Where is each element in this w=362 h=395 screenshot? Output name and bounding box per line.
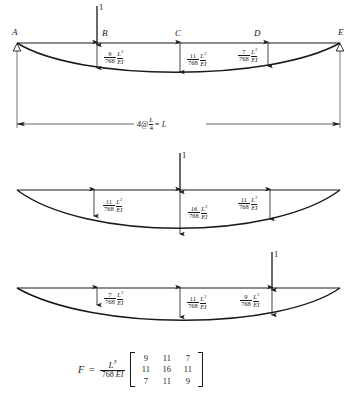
point-label-e: E [338,27,344,37]
deflection-label-1-b: 9 768 L3 EI [104,50,123,65]
flexibility-matrix-equation: F = L3 768 EI 9 11 7 11 16 11 7 [78,352,203,387]
matrix-cell: 11 [156,352,177,364]
symbol-fraction: L3 EI [117,291,123,306]
deflected-shape-3 [17,288,340,320]
matrix-bracket-group: 9 11 7 11 16 11 7 11 9 [130,352,203,387]
coefficient-fraction: 9 768 [104,51,116,65]
coefficient-fraction: 11 768 [103,199,115,213]
table-row: 9 11 7 [135,352,198,364]
deflection-label-3-c: 11 768 L3 EI [187,295,206,310]
matrix-cell: 9 [177,375,198,387]
matrix-cell: 11 [135,364,156,376]
matrix-cell: 7 [177,352,198,364]
symbol-fraction: L3 EI [116,198,122,213]
deflection-label-2-b: 11 768 L3 EI [103,198,122,213]
diagram-2-linework [17,153,340,234]
deflection-label-3-b: 7 768 L3 EI [104,291,123,306]
coefficient-fraction: 16 768 [188,206,200,220]
deflection-label-1-c: 11 768 L3 EI [187,52,206,67]
point-label-c: C [175,28,181,38]
table-row: 11 16 11 [135,364,198,376]
point-label-b: B [102,28,108,38]
point-label-d: D [254,28,261,38]
deflection-label-2-d: 11 768 L3 EI [238,196,257,211]
symbol-fraction: L3 EI [117,50,123,65]
matrix-table: 9 11 7 11 16 11 7 11 9 [135,352,198,387]
load-value-1: 1 [99,2,103,12]
load-value-3: 1 [274,249,278,259]
deflection-label-1-d: 7 768 L3 EI [238,48,257,63]
deflected-shape-1 [17,43,340,72]
diagram-1-linework [13,6,344,128]
coefficient-fraction: 7 768 [238,49,250,63]
coefficient-fraction: 9 768 [240,294,252,308]
matrix-cell: 9 [135,352,156,364]
matrix-symbol: F [78,364,84,375]
right-bracket [198,352,203,387]
matrix-cell: 7 [135,375,156,387]
coefficient-fraction: 11 768 [187,296,199,310]
symbol-fraction: L3 EI [251,48,257,63]
scalar-coefficient: L3 768 EI [100,359,126,380]
matrix-cell: 16 [156,364,177,376]
equals-sign: = [89,364,95,375]
quarter-span-fraction: L 4 [149,117,153,132]
symbol-fraction: L3 EI [200,52,206,67]
coefficient-fraction: 7 768 [104,292,116,306]
matrix-cell: 11 [156,375,177,387]
beam-flexibility-figure: A B C D E 1 1 1 9 768 L3 EI 11 768 L3 EI… [0,0,362,395]
figure-linework [0,0,362,395]
deflection-label-3-d: 9 768 L3 EI [240,293,259,308]
load-value-2: 1 [182,150,186,160]
symbol-fraction: L3 EI [201,205,207,220]
deflection-label-2-c: 16 768 L3 EI [188,205,207,220]
symbol-fraction: L3 EI [253,293,259,308]
symbol-fraction: L3 EI [200,295,206,310]
coefficient-fraction: 11 768 [238,197,250,211]
table-row: 7 11 9 [135,375,198,387]
span-dimension-label: 4@ L 4 = L [137,117,166,132]
matrix-cell: 11 [177,364,198,376]
diagram-3-linework [17,252,340,320]
deflected-shape-2 [17,190,340,228]
coefficient-fraction: 11 768 [187,53,199,67]
symbol-fraction: L3 EI [251,196,257,211]
point-label-a: A [12,27,18,37]
